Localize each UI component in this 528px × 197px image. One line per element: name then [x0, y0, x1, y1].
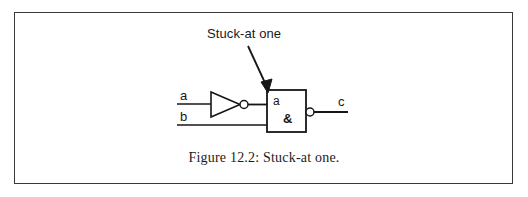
annotation-arrow-head [261, 79, 272, 93]
figure-page: Stuck-at one a b c a & Figure 12.2: Stuc… [0, 0, 528, 197]
input-label-a: a [180, 89, 187, 102]
and-gate-operator-label: & [283, 112, 292, 125]
not-gate-bubble [240, 101, 248, 109]
annotation-arrow-shaft [248, 46, 266, 85]
and-gate-input-label: a [273, 95, 280, 107]
not-gate-triangle [211, 92, 240, 117]
input-label-b: b [180, 110, 187, 123]
output-label-c: c [338, 95, 345, 108]
figure-caption: Figure 12.2: Stuck-at one. [0, 150, 528, 166]
and-gate-output-bubble [306, 108, 314, 116]
stuck-at-one-annotation-label: Stuck-at one [207, 26, 281, 41]
